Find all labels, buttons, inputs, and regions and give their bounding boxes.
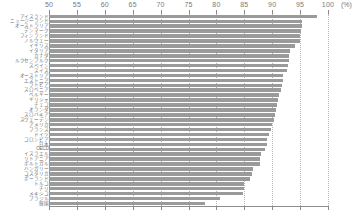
bar	[49, 167, 253, 171]
bar	[49, 64, 288, 68]
bar	[49, 44, 295, 48]
x-axis-tick-mark-bottom	[189, 206, 190, 210]
bar	[49, 152, 261, 156]
bar	[49, 148, 265, 152]
bar	[49, 123, 272, 127]
x-axis-tick-mark-bottom	[77, 206, 78, 210]
x-axis-tick-label: 80	[212, 1, 220, 9]
x-axis-tick-mark-bottom	[161, 206, 162, 210]
bar-chart: 50556065707580859095100(%) アイスランドニュージーラン…	[0, 0, 363, 219]
x-axis-tick-label: 60	[101, 1, 109, 9]
bar	[49, 98, 278, 102]
bar	[49, 108, 276, 112]
x-axis-bottom	[0, 206, 363, 212]
bar	[49, 20, 302, 24]
bar	[49, 172, 252, 176]
bar	[49, 162, 260, 166]
bar	[49, 74, 283, 78]
x-axis-tick-mark-bottom	[133, 206, 134, 210]
bar	[49, 177, 250, 181]
bar	[49, 69, 287, 73]
bar	[49, 118, 274, 122]
bar	[49, 24, 302, 28]
bar	[49, 54, 289, 58]
bar	[49, 15, 317, 19]
x-axis-tick-mark-bottom	[300, 206, 301, 210]
x-axis-tick-mark-bottom	[272, 206, 273, 210]
bar	[49, 187, 244, 191]
x-axis-tick-label: 70	[157, 1, 165, 9]
x-axis-tick-label: 65	[129, 1, 137, 9]
x-axis-tick-label: 55	[73, 1, 81, 9]
bar	[49, 84, 282, 88]
x-axis-tick-mark-bottom	[244, 206, 245, 210]
bar	[49, 113, 275, 117]
bars-container: アイスランドニュージーランドオーストラリアデンマークフィンランドノルウェーイギリ…	[0, 14, 363, 206]
bar	[49, 59, 289, 63]
bar	[49, 143, 267, 147]
bar	[49, 197, 220, 201]
x-axis-tick-label: 95	[296, 1, 304, 9]
x-axis-unit-label: (%)	[341, 1, 352, 9]
bar	[49, 128, 271, 132]
bar	[49, 192, 243, 196]
bar	[49, 133, 269, 137]
bar	[49, 103, 277, 107]
bar	[49, 49, 290, 53]
x-axis-tick-mark-bottom	[49, 206, 50, 210]
x-axis-tick-label: 75	[184, 1, 192, 9]
bar	[49, 157, 260, 161]
bar	[49, 39, 300, 43]
bar	[49, 182, 244, 186]
bar	[49, 138, 267, 142]
x-axis-tick-mark-bottom	[328, 206, 329, 210]
plot-area: アイスランドニュージーランドオーストラリアデンマークフィンランドノルウェーイギリ…	[0, 14, 363, 206]
bar-category-label: 韓国	[39, 201, 49, 206]
x-axis-tick-label: 85	[240, 1, 248, 9]
x-axis-top: 50556065707580859095100(%)	[0, 0, 363, 15]
x-axis-tick-label: 100	[322, 1, 334, 9]
x-axis-tick-label: 50	[45, 1, 53, 9]
bar	[49, 93, 279, 97]
x-axis-tick-label: 90	[268, 1, 276, 9]
bar	[49, 29, 301, 33]
x-axis-tick-mark-bottom	[216, 206, 217, 210]
bar	[49, 34, 300, 38]
bar	[49, 202, 205, 206]
bar	[49, 79, 283, 83]
bar	[49, 88, 281, 92]
x-axis-tick-mark-bottom	[105, 206, 106, 210]
